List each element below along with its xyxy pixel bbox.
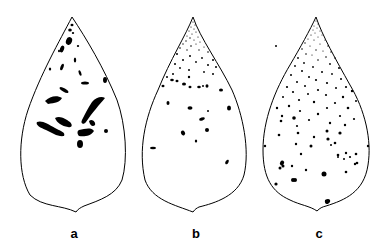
- leaf-figure: [0, 0, 384, 246]
- leaf-b-spots: [150, 21, 231, 165]
- panel-label-c: c: [309, 226, 329, 241]
- leaf-a-lesions: [37, 24, 108, 148]
- leaf-c-outline: [263, 17, 369, 211]
- panel-label-a: a: [64, 226, 84, 241]
- leaf-c: [263, 17, 369, 211]
- panel-label-b: b: [186, 226, 206, 241]
- leaf-a-outline: [21, 17, 126, 212]
- leaf-b-outline: [142, 17, 246, 212]
- leaf-b: [142, 17, 246, 212]
- leaf-a: [21, 17, 126, 212]
- leaf-c-spots: [264, 21, 369, 205]
